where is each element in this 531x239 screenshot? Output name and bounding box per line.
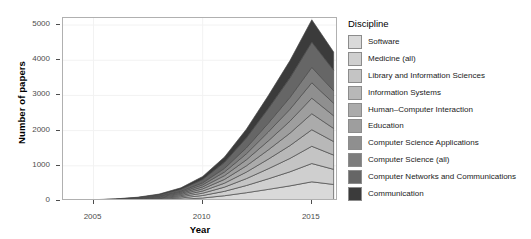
legend-swatch-icon: [348, 52, 362, 66]
legend-item[interactable]: Computer Networks and Communications: [345, 168, 531, 185]
legend-items: SoftwareMedicine (all)Library and Inform…: [345, 34, 531, 202]
x-tick-label-text: 2015: [302, 212, 320, 221]
legend-item-label: Human–Computer Interaction: [368, 105, 473, 115]
legend-item[interactable]: Medicine (all): [345, 51, 531, 68]
y-tick-label-text: 5000: [6, 19, 50, 28]
legend-item[interactable]: Library and Information Sciences: [345, 68, 531, 85]
legend-item[interactable]: Human–Computer Interaction: [345, 101, 531, 118]
y-tick-label: 2000: [6, 125, 50, 135]
legend-item[interactable]: Computer Science (all): [345, 152, 531, 169]
legend-item-label: Software: [368, 37, 400, 47]
y-tick-label-text: 0: [6, 195, 50, 204]
y-tick-label-text: 3000: [6, 89, 50, 98]
legend-title: Discipline: [348, 18, 531, 29]
x-tick-mark: [202, 200, 203, 204]
y-tick-mark: [56, 24, 60, 25]
y-tick-label: 5000: [6, 19, 50, 29]
plot-panel: [62, 17, 337, 200]
legend: Discipline SoftwareMedicine (all)Library…: [345, 18, 531, 202]
plot-area: [63, 18, 337, 200]
x-axis-title: Year: [62, 224, 338, 235]
legend-swatch-icon: [348, 119, 362, 133]
x-tick-label-text: 2005: [84, 212, 102, 221]
x-tick-label: 2010: [172, 205, 232, 223]
legend-item[interactable]: Education: [345, 118, 531, 135]
legend-swatch-icon: [348, 187, 362, 201]
y-tick-label: 3000: [6, 89, 50, 99]
y-tick-mark: [56, 94, 60, 95]
legend-item-label: Communication: [368, 189, 424, 199]
y-tick-mark: [56, 165, 60, 166]
legend-swatch-icon: [348, 35, 362, 49]
legend-swatch-icon: [348, 103, 362, 117]
y-tick-label: 0: [6, 195, 50, 205]
legend-swatch-icon: [348, 170, 362, 184]
legend-swatch-icon: [348, 153, 362, 167]
legend-item-label: Library and Information Sciences: [368, 71, 485, 81]
legend-swatch-icon: [348, 136, 362, 150]
x-tick-label: 2015: [281, 205, 341, 223]
legend-item-label: Computer Science Applications: [368, 138, 479, 148]
x-tick-label: 2005: [63, 205, 123, 223]
y-tick-label: 1000: [6, 160, 50, 170]
y-tick-label-text: 1000: [6, 160, 50, 169]
x-tick-label-text: 2010: [193, 212, 211, 221]
legend-item[interactable]: Communication: [345, 185, 531, 202]
legend-item-label: Computer Science (all): [368, 155, 449, 165]
y-tick-mark: [56, 59, 60, 60]
legend-item[interactable]: Information Systems: [345, 84, 531, 101]
x-tick-mark: [311, 200, 312, 204]
legend-item[interactable]: Computer Science Applications: [345, 135, 531, 152]
legend-item-label: Education: [368, 121, 404, 131]
legend-item-label: Medicine (all): [368, 54, 416, 64]
y-tick-mark: [56, 130, 60, 131]
y-tick-mark: [56, 200, 60, 201]
legend-swatch-icon: [348, 69, 362, 83]
stacked-area-chart: Number of papers Year 010002000300040005…: [0, 0, 531, 239]
legend-swatch-icon: [348, 86, 362, 100]
y-tick-label: 4000: [6, 54, 50, 64]
x-tick-mark: [93, 200, 94, 204]
legend-item-label: Computer Networks and Communications: [368, 172, 516, 182]
y-tick-label-text: 4000: [6, 54, 50, 63]
legend-item[interactable]: Software: [345, 34, 531, 51]
legend-item-label: Information Systems: [368, 88, 441, 98]
y-tick-label-text: 2000: [6, 125, 50, 134]
